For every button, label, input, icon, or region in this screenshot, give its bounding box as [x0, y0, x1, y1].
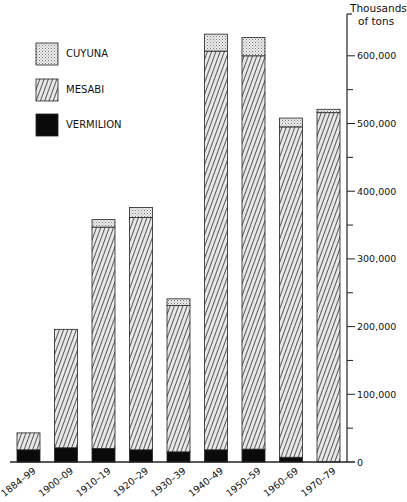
bar-segment-cuyuna — [205, 34, 228, 51]
legend-label: VERMILION — [66, 119, 122, 130]
bar-segment-mesabi — [17, 433, 40, 450]
x-tick-label: 1930–39 — [149, 465, 188, 499]
legend-swatch-mesabi — [36, 79, 58, 101]
x-tick-label: 1884–99 — [0, 465, 38, 499]
y-tick-label: 600,000 — [357, 50, 396, 61]
bar-segment-mesabi — [317, 113, 340, 462]
x-axis-labels: 1884–991900–091910–191920–291930–391940–… — [0, 465, 338, 499]
y-tick-label: 200,000 — [357, 321, 396, 332]
bar-segment-mesabi — [130, 218, 153, 450]
y-tick-label: 500,000 — [357, 118, 396, 129]
y-axis-title-line2: of tons — [358, 15, 394, 27]
bar-segment-cuyuna — [317, 109, 340, 112]
bar-segment-vermilion — [55, 448, 78, 462]
legend-item-mesabi: MESABI — [36, 79, 104, 101]
bar-segment-vermilion — [167, 452, 190, 462]
y-tick-label: 0 — [357, 457, 363, 468]
bar-1930–39 — [167, 299, 190, 462]
stacked-bar-chart: CUYUNAMESABIVERMILION 0100,000200,000300… — [0, 0, 407, 502]
x-tick-label: 1920–29 — [111, 465, 150, 499]
bar-segment-cuyuna — [92, 220, 115, 227]
legend: CUYUNAMESABIVERMILION — [36, 43, 122, 136]
legend-item-vermilion: VERMILION — [36, 114, 122, 136]
y-tick-label: 300,000 — [357, 253, 396, 264]
bar-1970–79 — [317, 109, 340, 462]
x-tick-label: 1950–59 — [224, 465, 263, 499]
y-axis-title-line1: Thousands — [349, 2, 407, 14]
bar-segment-cuyuna — [130, 207, 153, 217]
bar-segment-mesabi — [280, 127, 303, 457]
bar-segment-vermilion — [130, 450, 153, 462]
bar-segment-mesabi — [92, 227, 115, 448]
bar-segment-mesabi — [242, 56, 265, 449]
bar-segment-cuyuna — [280, 118, 303, 127]
legend-label: CUYUNA — [66, 48, 108, 59]
bar-segment-vermilion — [242, 449, 265, 462]
bar-1884–99 — [17, 433, 40, 462]
y-tick-label: 400,000 — [357, 186, 396, 197]
x-tick-label: 1910–19 — [74, 465, 113, 499]
bar-segment-mesabi — [167, 306, 190, 452]
bar-segment-mesabi — [55, 329, 78, 447]
legend-swatch-cuyuna — [36, 43, 58, 65]
bars — [17, 34, 340, 462]
bar-1900–09 — [55, 329, 78, 462]
legend-label: MESABI — [66, 84, 104, 95]
bar-segment-vermilion — [92, 448, 115, 462]
bar-segment-cuyuna — [167, 299, 190, 306]
legend-swatch-vermilion — [36, 114, 58, 136]
x-tick-label: 1970–79 — [299, 465, 338, 499]
x-tick-label: 1960–69 — [261, 465, 300, 499]
bar-1920–29 — [130, 207, 153, 462]
bar-1910–19 — [92, 220, 115, 462]
x-tick-label: 1900–09 — [36, 465, 75, 499]
bar-segment-vermilion — [205, 450, 228, 462]
y-tick-label: 100,000 — [357, 389, 396, 400]
x-tick-label: 1940–49 — [186, 465, 225, 499]
bar-1950–59 — [242, 38, 265, 462]
bar-1960–69 — [280, 118, 303, 462]
bar-1940–49 — [205, 34, 228, 462]
bar-segment-vermilion — [17, 450, 40, 462]
y-axis-title: Thousandsof tons — [349, 2, 407, 27]
bar-segment-mesabi — [205, 51, 228, 450]
bar-segment-cuyuna — [242, 38, 265, 56]
legend-item-cuyuna: CUYUNA — [36, 43, 108, 65]
